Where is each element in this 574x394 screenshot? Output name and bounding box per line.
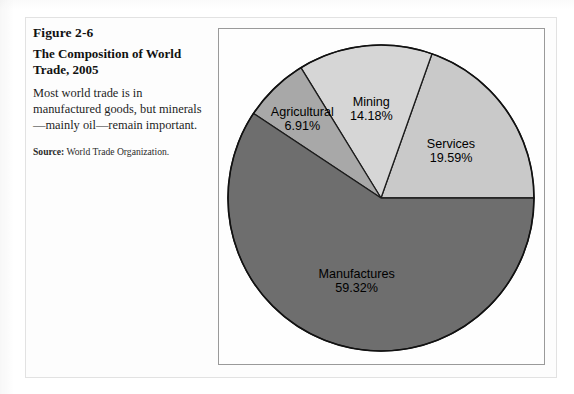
figure-description: Most world trade is in manufactured good…: [33, 86, 205, 133]
figure-caption-block: Figure 2-6 The Composition of World Trad…: [33, 25, 205, 158]
pie-label-mining: Mining14.18%: [350, 95, 393, 123]
figure-source-line: Source: World Trade Organization.: [33, 146, 205, 158]
pie-label-services: Services19.59%: [427, 137, 475, 165]
figure-title: The Composition of World Trade, 2005: [33, 46, 205, 77]
source-text: World Trade Organization.: [64, 146, 169, 157]
chart-panel: Services19.59%Mining14.18%Agricultural6.…: [218, 28, 545, 365]
figure-number: Figure 2-6: [33, 25, 205, 41]
pie-slice-group: [228, 45, 534, 351]
figure-page: Figure 2-6 The Composition of World Trad…: [0, 0, 574, 394]
pie-chart: Services19.59%Mining14.18%Agricultural6.…: [219, 29, 546, 366]
source-label: Source:: [33, 146, 64, 157]
